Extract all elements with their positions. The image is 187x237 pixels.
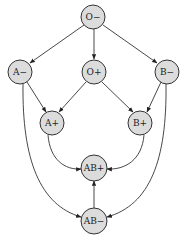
edge-b-neg-to-b-pos — [147, 82, 161, 112]
edge-o-neg-to-a-neg — [30, 25, 84, 63]
node-o-neg: O− — [81, 5, 105, 29]
edge-b-pos-to-ab-pos — [107, 135, 144, 169]
node-b-neg: B− — [155, 60, 179, 84]
node-label: O+ — [87, 67, 102, 77]
node-label: AB+ — [83, 163, 105, 173]
edge-a-neg-to-a-pos — [27, 82, 46, 112]
node-label: A− — [12, 67, 27, 77]
edge-a-pos-to-ab-pos — [48, 135, 81, 169]
node-label: B+ — [133, 118, 147, 128]
edge-o-pos-to-b-pos — [102, 82, 133, 112]
node-a-pos: A+ — [40, 111, 64, 135]
node-label: B− — [160, 67, 174, 77]
node-label: AB− — [83, 216, 105, 226]
edge-o-pos-to-a-pos — [59, 82, 86, 112]
node-b-pos: B+ — [128, 111, 152, 135]
node-ab-pos: AB+ — [81, 155, 107, 181]
nodes: O− A− O+ B− A+ B+ AB+ AB− — [8, 5, 179, 234]
node-label: O− — [86, 12, 101, 22]
node-label: A+ — [44, 118, 59, 128]
node-a-neg: A− — [8, 60, 32, 84]
node-ab-neg: AB− — [81, 208, 107, 234]
edge-b-neg-to-ab-neg — [107, 84, 166, 217]
edge-o-neg-to-b-neg — [103, 25, 157, 63]
blood-type-compatibility-diagram: O− A− O+ B− A+ B+ AB+ AB− — [0, 0, 187, 237]
node-o-pos: O+ — [82, 60, 106, 84]
